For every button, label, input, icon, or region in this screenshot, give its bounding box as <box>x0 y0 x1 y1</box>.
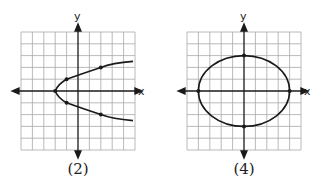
x-axis-label: x <box>304 85 311 98</box>
ellipse-graph: x y <box>167 0 334 187</box>
y-axis-label: y <box>74 10 81 23</box>
graph-panel-4: x y (4) <box>167 0 334 187</box>
graph-panel-2: x y (2) <box>0 0 167 187</box>
x-axis-label: x <box>138 85 145 98</box>
figure-caption: (4) <box>214 160 274 178</box>
y-axis-label: y <box>240 10 247 23</box>
parabola-graph: x y <box>0 0 167 187</box>
figure-caption: (2) <box>48 160 108 178</box>
